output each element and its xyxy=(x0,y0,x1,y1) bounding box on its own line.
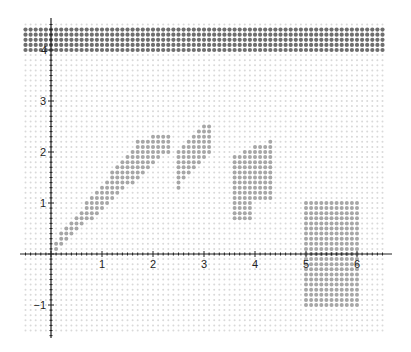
lattice-dot xyxy=(127,115,129,117)
lattice-dot xyxy=(157,69,159,71)
lattice-dot xyxy=(371,95,373,97)
lattice-dot xyxy=(75,227,79,231)
lattice-dot xyxy=(60,187,62,189)
lattice-dot xyxy=(239,222,241,224)
lattice-dot xyxy=(85,48,89,52)
lattice-dot xyxy=(65,141,67,143)
lattice-dot xyxy=(86,115,88,117)
lattice-dot xyxy=(59,237,63,241)
lattice-dot xyxy=(371,268,373,270)
lattice-dot xyxy=(65,90,67,92)
lattice-dot xyxy=(137,192,139,194)
lattice-dot xyxy=(193,126,195,128)
lattice-dot xyxy=(121,284,123,286)
lattice-dot xyxy=(132,64,134,66)
lattice-dot xyxy=(336,156,338,158)
lattice-dot xyxy=(320,141,322,143)
lattice-dot xyxy=(193,289,195,291)
lattice-dot xyxy=(198,258,200,260)
lattice-dot xyxy=(229,248,231,250)
lattice-dot xyxy=(218,171,220,173)
lattice-dot xyxy=(382,120,384,122)
lattice-dot xyxy=(193,330,195,332)
lattice-dot xyxy=(249,314,251,316)
lattice-dot xyxy=(203,75,205,77)
lattice-dot xyxy=(178,217,180,219)
lattice-dot xyxy=(213,258,215,260)
lattice-dot xyxy=(249,268,251,270)
lattice-dot xyxy=(25,273,27,275)
lattice-dot xyxy=(137,294,139,296)
lattice-dot xyxy=(110,48,114,52)
lattice-dot xyxy=(280,105,282,107)
lattice-dot xyxy=(268,33,272,37)
lattice-dot xyxy=(249,85,251,87)
lattice-dot xyxy=(157,309,159,311)
lattice-dot xyxy=(35,105,37,107)
lattice-dot xyxy=(167,115,169,117)
lattice-dot xyxy=(295,100,297,102)
lattice-dot xyxy=(106,90,108,92)
lattice-dot xyxy=(305,324,307,326)
lattice-dot xyxy=(361,85,363,87)
lattice-dot xyxy=(268,155,272,159)
lattice-dot xyxy=(227,38,231,42)
lattice-dot xyxy=(300,85,302,87)
lattice-dot xyxy=(193,54,195,56)
lattice-dot xyxy=(172,202,174,204)
lattice-dot xyxy=(30,177,32,179)
lattice-dot xyxy=(131,150,135,154)
lattice-dot xyxy=(213,177,215,179)
lattice-dot xyxy=(218,126,220,128)
lattice-dot xyxy=(280,314,282,316)
lattice-dot xyxy=(289,28,293,32)
lattice-dot xyxy=(371,131,373,133)
lattice-dot xyxy=(314,33,318,37)
lattice-dot xyxy=(213,100,215,102)
lattice-dot xyxy=(229,228,231,230)
lattice-dot xyxy=(178,304,180,306)
lattice-dot xyxy=(100,196,104,200)
lattice-dot xyxy=(330,211,334,215)
lattice-dot xyxy=(111,279,113,281)
lattice-dot xyxy=(285,222,287,224)
lattice-dot xyxy=(259,126,261,128)
lattice-dot xyxy=(263,176,267,180)
lattice-dot xyxy=(111,120,113,122)
lattice-dot xyxy=(361,248,363,250)
lattice-dot xyxy=(111,228,113,230)
lattice-dot xyxy=(157,197,159,199)
lattice-dot xyxy=(25,299,27,301)
lattice-dot xyxy=(280,141,282,143)
lattice-dot xyxy=(188,54,190,56)
lattice-dot xyxy=(111,80,113,82)
lattice-dot xyxy=(152,110,154,112)
lattice-dot xyxy=(152,309,154,311)
lattice-dot xyxy=(177,165,181,169)
lattice-dot xyxy=(183,197,185,199)
lattice-dot xyxy=(336,105,338,107)
lattice-dot xyxy=(330,206,334,210)
lattice-dot xyxy=(315,59,317,61)
lattice-dot xyxy=(106,120,108,122)
lattice-dot xyxy=(127,248,129,250)
lattice-dot xyxy=(340,278,344,282)
lattice-dot xyxy=(375,28,379,32)
lattice-dot xyxy=(81,64,83,66)
lattice-dot xyxy=(208,177,210,179)
lattice-dot xyxy=(85,38,89,42)
lattice-dot xyxy=(167,202,169,204)
lattice-dot xyxy=(330,272,334,276)
lattice-dot xyxy=(45,166,47,168)
lattice-dot xyxy=(35,156,37,158)
lattice-dot xyxy=(193,202,195,204)
lattice-dot xyxy=(76,212,78,214)
lattice-dot xyxy=(325,90,327,92)
lattice-dot xyxy=(183,69,185,71)
lattice-dot xyxy=(356,171,358,173)
lattice-dot xyxy=(207,150,211,154)
lattice-dot xyxy=(127,222,129,224)
lattice-dot xyxy=(280,279,282,281)
lattice-dot xyxy=(324,232,328,236)
lattice-dot xyxy=(141,170,145,174)
